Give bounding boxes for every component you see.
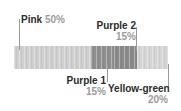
bar-segment-pink[interactable]	[14, 46, 91, 69]
callout-pink: Pink 50%	[21, 12, 65, 25]
callout-yellow-green: Yellow-green 20%	[108, 83, 168, 105]
callout-purple-1-label: Purple 1	[59, 75, 106, 86]
stacked-bar-chart: Pink 50% Purple 2 15% Purple 1 15% Yello…	[0, 0, 181, 111]
leader-line-purple-1	[107, 64, 108, 82]
callout-purple-1: Purple 1 15%	[59, 75, 106, 97]
callout-purple-1-percent: 15%	[59, 86, 106, 97]
callout-yellow-green-label: Yellow-green	[108, 83, 168, 94]
bar-segment-purple-1[interactable]	[91, 46, 114, 69]
bar-segment-purple-2[interactable]	[114, 46, 137, 69]
callout-purple-2-label: Purple 2	[89, 20, 136, 31]
callout-pink-label: Pink	[21, 14, 42, 25]
callout-yellow-green-percent: 20%	[108, 94, 168, 105]
callout-purple-2-percent: 15%	[89, 31, 136, 42]
callout-purple-2: Purple 2 15%	[89, 20, 136, 42]
stacked-bar-track	[14, 46, 168, 69]
callout-pink-percent-value: 50%	[45, 14, 65, 25]
bar-segment-yellow-green[interactable]	[137, 46, 168, 69]
leader-line-pink	[19, 19, 20, 50]
leader-line-purple-2	[136, 27, 137, 51]
